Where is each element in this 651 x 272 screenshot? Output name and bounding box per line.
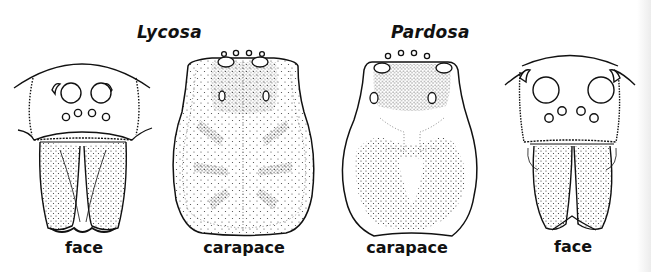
lycosa-face-eyes (52, 83, 112, 121)
genus-title-lycosa: Lycosa (137, 22, 202, 42)
pardosa-carapace-drawing (342, 50, 476, 236)
lycosa-face-drawing (14, 64, 152, 232)
lycosa-carapace-label: carapace (203, 238, 285, 257)
lycosa-face-label: face (65, 238, 103, 257)
genus-title-pardosa: Pardosa (391, 22, 470, 42)
spider-comparison-figure: Lycosa Pardosa face carapace carapace fa… (0, 0, 651, 272)
page-edge-shadow (637, 0, 651, 272)
pardosa-face-eyes (520, 70, 620, 123)
pardosa-face-label: face (554, 237, 592, 256)
pardosa-face-drawing (505, 56, 635, 231)
lycosa-carapace-drawing (173, 50, 314, 235)
illustration-canvas (0, 0, 651, 272)
pardosa-carapace-label: carapace (366, 238, 448, 257)
